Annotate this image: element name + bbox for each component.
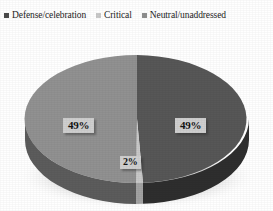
legend-swatch-icon (96, 13, 101, 18)
pie-data-label-defense-celebration: 49% (175, 118, 206, 133)
pie-chart-graphic (0, 26, 273, 211)
pie-chart: 49% 49% 2% (0, 26, 273, 211)
legend-swatch-icon (4, 13, 9, 18)
legend-item-defense-celebration: Defense/celebration (4, 10, 86, 20)
pie-side-wall-critical (136, 183, 143, 204)
legend-swatch-icon (142, 13, 147, 18)
pie-data-label-critical: 2% (120, 156, 141, 169)
pie-data-label-neutral-unaddressed: 49% (63, 118, 94, 133)
legend-label: Defense/celebration (12, 10, 86, 20)
legend-label: Neutral/unaddressed (150, 10, 226, 20)
legend-item-neutral-unaddressed: Neutral/unaddressed (142, 10, 226, 20)
legend-label: Critical (104, 10, 132, 20)
chart-legend: Defense/celebration Critical Neutral/una… (0, 7, 273, 23)
legend-item-critical: Critical (96, 10, 132, 20)
